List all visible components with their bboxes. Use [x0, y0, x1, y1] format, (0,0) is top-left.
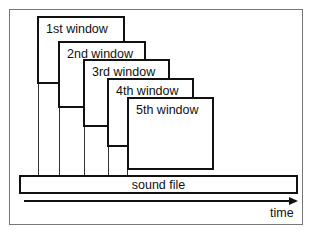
- time-axis-label: time: [270, 206, 294, 220]
- time-arrow-icon: [0, 0, 313, 235]
